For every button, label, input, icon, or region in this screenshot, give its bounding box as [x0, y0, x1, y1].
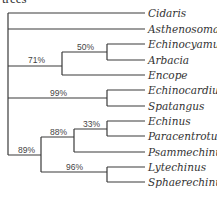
support-value-71: 71% [28, 55, 45, 65]
leaf-label-paracentrotus: Paracentrotus [147, 130, 217, 142]
leaf-label-cidaris: Cidaris [148, 7, 187, 19]
leaf-label-echinocardium: Echinocardium [147, 84, 217, 96]
leaf-label-psammechinus: Psammechinus [147, 146, 217, 158]
leaf-label-sphaerechinus: Sphaerechinus [148, 176, 217, 188]
leaf-label-asthenosoma: Asthenosoma [147, 23, 217, 35]
leaf-label-encope: Encope [147, 69, 188, 81]
support-value-33: 33% [83, 119, 100, 129]
leaf-label-echinocyamus: Echinocyamus [147, 38, 217, 50]
support-value-50: 50% [77, 42, 94, 52]
leaf-label-lytechinus: Lytechinus [147, 161, 207, 173]
support-value-89: 89% [18, 145, 35, 155]
support-value-96: 96% [66, 162, 83, 172]
phylogenetic-tree: Cidaris Asthenosoma Echinocyamus Arbacia… [0, 0, 217, 199]
support-value-88: 88% [50, 127, 67, 137]
leaf-label-spatangus: Spatangus [148, 100, 205, 112]
leaf-label-echinus: Echinus [147, 115, 191, 127]
support-value-99: 99% [50, 88, 67, 98]
leaf-label-arbacia: Arbacia [147, 54, 189, 66]
